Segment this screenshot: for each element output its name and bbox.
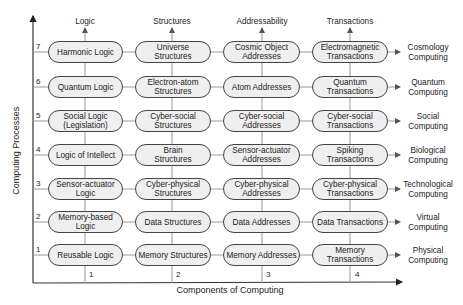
output-technological-computing: Technological Computing [396,180,460,199]
row-index: 7 [36,42,40,51]
cell-sensor-actuator-addresses: Sensor-actuator Addresses [223,144,300,166]
cell-electron-atom-structures: Electron-atom Structures [135,76,211,98]
column-header-logic: Logic [55,17,115,27]
cell-data-addresses: Data Addresses [223,211,300,233]
cell-cosmic-object-addresses: Cosmic Object Addresses [223,41,300,63]
output-cosmology-computing: Cosmology Computing [398,43,458,62]
cell-spiking-transactions: Spiking Transactions [312,144,388,166]
cell-data-transactions: Data Transactions [312,211,388,233]
output-social-computing: Social Computing [398,112,458,131]
cell-cyber-physical-structures: Cyber-physical Structures [135,178,211,200]
cell-logic-of-intellect: Logic of Intellect [48,144,123,166]
row-index: 4 [36,145,40,154]
column-index: 4 [355,270,359,279]
cell-memory-structures: Memory Structures [135,244,211,266]
cell-sensor-actuator-logic: Sensor-actuator Logic [48,178,123,200]
cell-social-logic: Social Logic (Legislation) [48,110,123,132]
cell-harmonic-logic: Harmonic Logic [48,41,123,63]
output-biological-computing: Biological Computing [398,146,458,165]
cell-brain-structures: Brain Structures [135,144,211,166]
cell-atom-addresses: Atom Addresses [223,76,300,98]
cell-cyber-physical-transactions: Cyber-physical Transactions [312,178,388,200]
row-index: 1 [36,245,40,254]
row-index: 2 [36,212,40,221]
x-axis-label: Components of Computing [150,286,310,296]
column-header-transactions: Transactions [315,17,385,27]
output-virtual-computing: Virtual Computing [398,213,458,232]
output-quantum-computing: Quantum Computing [398,78,458,97]
cell-quantum-transactions: Quantum Transactions [312,76,388,98]
row-index: 3 [36,179,40,188]
y-axis-label: Computing Processes [12,106,22,196]
cell-quantum-logic: Quantum Logic [48,76,123,98]
row-index: 5 [36,111,40,120]
cell-cyber-social-structures: Cyber-social Structures [135,110,211,132]
column-header-addressability: Addressability [222,17,302,27]
cell-memory-based-logic: Memory-based Logic [48,211,123,233]
cell-data-structures: Data Structures [135,211,211,233]
row-index: 6 [36,77,40,86]
cell-cyber-physical-addresses: Cyber-physical Addresses [223,178,300,200]
cell-memory-addresses: Memory Addresses [223,244,300,266]
column-index: 1 [89,270,93,279]
cell-electromagnetic-transactions: Electromagnetic Transactions [312,41,388,63]
cell-cyber-social-addresses: Cyber-social Addresses [223,110,300,132]
cell-reusable-logic: Reusable Logic [48,244,123,266]
cell-cyber-social-transactions: Cyber-social Transactions [312,110,388,132]
cell-memory-transactions: Memory Transactions [312,244,388,266]
column-index: 2 [176,270,180,279]
output-physical-computing: Physical Computing [398,246,458,265]
cell-universe-structures: Universe Structures [135,41,211,63]
column-header-structures: Structures [142,17,202,27]
column-index: 3 [266,270,270,279]
